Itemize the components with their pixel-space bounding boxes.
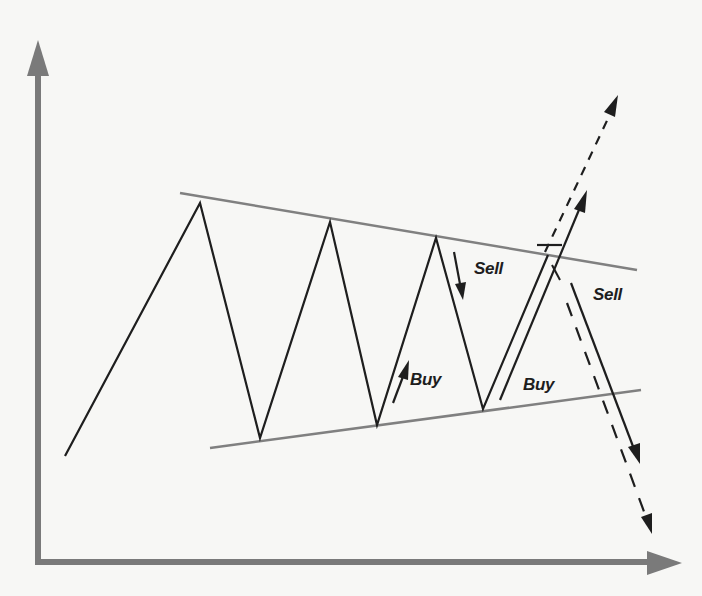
y-axis-arrowhead-icon xyxy=(27,40,49,76)
buy-arrowhead-icon xyxy=(398,360,409,380)
y-axis xyxy=(27,40,49,562)
sell-label-2: Sell xyxy=(593,285,624,304)
buy-label-2: Buy xyxy=(523,375,556,394)
breakout-up-dashed-arrowhead-icon xyxy=(604,95,618,117)
breakdown-dashed-arrowhead-icon xyxy=(641,513,652,534)
triangle-pattern-diagram: Sell Buy Buy Sell xyxy=(0,0,702,596)
buy-label-1: Buy xyxy=(410,370,443,389)
breakout-up-dashed-arrow xyxy=(537,95,618,280)
breakout-up-arrowhead-icon xyxy=(574,190,587,213)
x-axis xyxy=(35,551,682,575)
price-path xyxy=(65,203,548,456)
breakdown-arrow xyxy=(571,283,640,464)
lower-trendline xyxy=(210,390,641,448)
x-axis-arrowhead-icon xyxy=(647,551,682,575)
sell-signal-arrow xyxy=(454,252,466,300)
breakdown-arrowhead-icon xyxy=(628,443,640,464)
sell-arrowhead-icon xyxy=(455,282,466,300)
breakdown-dashed-arrow xyxy=(567,303,652,534)
breakout-up-arrow xyxy=(500,190,587,400)
sell-label-1: Sell xyxy=(474,259,505,278)
